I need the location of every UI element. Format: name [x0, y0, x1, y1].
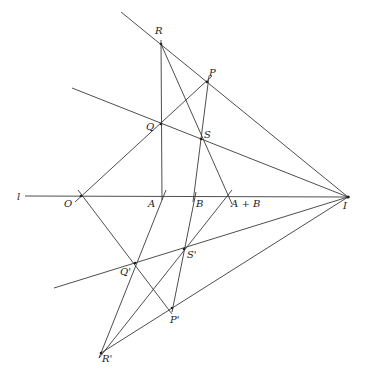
line-O-Qp-Pp: [78, 190, 172, 314]
line-Q-S-I: [72, 88, 348, 197]
label-O: O: [64, 198, 72, 209]
line-Rp-AplusB: [99, 190, 232, 358]
label-l: l: [17, 191, 20, 202]
line-R-P-I: [121, 12, 348, 197]
projective-addition-diagram: l R P Q S O A B A + B I S' Q' P' R': [0, 0, 371, 373]
label-Pp: P': [169, 314, 179, 325]
point-Q: [160, 123, 163, 126]
label-Sp: S': [187, 249, 197, 260]
point-R: [160, 43, 163, 46]
label-B: B: [195, 198, 203, 209]
label-Qp: Q': [120, 266, 131, 277]
point-Sp: [183, 248, 186, 251]
point-Qp: [134, 262, 137, 265]
point-O: [80, 195, 83, 198]
point-Pp: [171, 307, 174, 310]
label-P: P: [208, 67, 216, 78]
line-R-A: [161, 40, 162, 200]
line-Rp-Pp-I: [101, 197, 348, 353]
line-Qp-Sp-I: [54, 197, 348, 288]
line-O-Q-P: [75, 76, 212, 202]
label-S: S: [204, 129, 211, 140]
label-A: A: [147, 198, 155, 209]
point-S: [200, 138, 203, 141]
label-Q: Q: [146, 121, 154, 132]
line-l: [25, 196, 350, 197]
point-I: [346, 195, 349, 198]
label-Rp: R': [101, 353, 112, 364]
label-AplusB: A + B: [230, 198, 260, 209]
label-I: I: [342, 200, 348, 211]
line-R-AplusB: [161, 44, 232, 204]
point-P: [206, 81, 209, 84]
label-R: R: [154, 25, 163, 36]
